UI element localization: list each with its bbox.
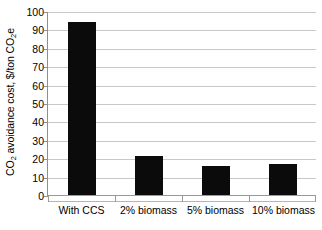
- category-separator-4: [315, 196, 316, 202]
- y-tick-label-100: 100: [18, 7, 44, 18]
- bar-2pct-biomass: [135, 156, 163, 195]
- bar-5pct-biomass: [202, 166, 230, 195]
- y-axis-title: CO2 avoidance cost, $/ton CO2e: [2, 4, 18, 200]
- bar-with-ccs: [68, 22, 96, 195]
- category-separator-2: [182, 196, 183, 202]
- y-tick-label-70: 70: [18, 62, 44, 73]
- y-tick-label-80: 80: [18, 44, 44, 55]
- bar-chart: CO2 avoidance cost, $/ton CO2e 100 90 80…: [0, 0, 322, 230]
- y-tick-label-50: 50: [18, 99, 44, 110]
- y-axis-tick-labels: 100 90 80 70 60 50 40 30 20 10 0: [18, 12, 44, 196]
- category-label-2pct-biomass: 2% biomass: [115, 205, 182, 217]
- y-tick-label-20: 20: [18, 154, 44, 165]
- y-tick-label-60: 60: [18, 80, 44, 91]
- y-tick-label-90: 90: [18, 25, 44, 36]
- category-separator-0: [48, 196, 49, 202]
- plot-area: [48, 12, 316, 196]
- y-tick-label-40: 40: [18, 117, 44, 128]
- y-tick-label-10: 10: [18, 172, 44, 183]
- y-axis-title-text: CO2 avoidance cost, $/ton CO2e: [4, 28, 16, 176]
- category-separator-1: [115, 196, 116, 202]
- category-label-with-ccs: With CCS: [48, 205, 115, 217]
- category-label-10pct-biomass: 10% biomass: [249, 205, 318, 217]
- category-label-5pct-biomass: 5% biomass: [182, 205, 249, 217]
- gridline-100: [48, 12, 316, 13]
- category-separator-3: [249, 196, 250, 202]
- y-tick-label-30: 30: [18, 136, 44, 147]
- y-tick-label-0: 0: [18, 191, 44, 202]
- bar-10pct-biomass: [269, 164, 297, 195]
